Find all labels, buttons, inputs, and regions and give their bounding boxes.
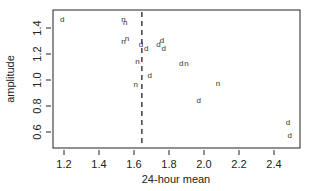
x-tick-label: 2.2 [231,158,246,170]
data-point-d: d [162,44,166,53]
scatter-chart: 1.21.41.61.82.02.22.4 0.60.81.01.21.4 dn… [0,0,315,191]
y-axis-title: amplitude [4,55,16,103]
data-point-d: d [148,71,152,80]
data-point-d: d [288,131,292,140]
y-tick-label: 1.0 [31,72,43,87]
data-point-n: n [125,34,129,43]
x-axis-title: 24-hour mean [142,173,211,185]
x-tick-label: 2.4 [266,158,281,170]
y-tick-label: 0.8 [31,98,43,113]
x-tick-label: 1.4 [91,158,106,170]
x-tick-label: 1.8 [161,158,176,170]
y-axis: 0.60.81.01.21.4 [31,20,51,139]
data-point-n: n [123,18,127,27]
x-axis: 1.21.41.61.82.02.22.4 [56,150,281,170]
data-point-d: d [60,15,64,24]
data-point-n: n [216,79,220,88]
y-tick-label: 1.2 [31,46,43,61]
data-point-n: n [184,59,188,68]
data-point-d: d [286,118,290,127]
data-point-d: d [197,96,201,105]
x-tick-label: 1.6 [126,158,141,170]
y-tick-label: 1.4 [31,20,43,35]
data-point-d: d [139,40,143,49]
data-point-d: d [179,59,183,68]
y-tick-label: 0.6 [31,124,43,139]
data-point-d: d [144,44,148,53]
data-point-n: n [135,57,139,66]
data-points: dnnnndddddnddnnnddd [60,15,292,140]
x-tick-label: 1.2 [56,158,71,170]
plot-frame [53,10,300,148]
data-point-n: n [134,80,138,89]
x-tick-label: 2.0 [196,158,211,170]
